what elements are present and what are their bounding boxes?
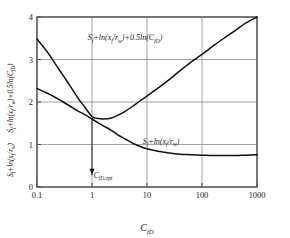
x-tick-label: 10: [143, 191, 151, 200]
chart-svg: 0.11101001000 01234 CfD Sf+ln(xf/rw)+0.5…: [0, 0, 290, 238]
y-tick-label: 1: [29, 141, 33, 150]
y-tick-label: 3: [29, 56, 33, 65]
yu-r3: )+0.5ln(C: [6, 71, 15, 102]
cu-p4: ): [159, 33, 163, 42]
cl-p1: +ln(x: [148, 137, 166, 146]
cl-p3: ): [176, 137, 180, 146]
x-tick-label: 0.1: [32, 191, 42, 200]
yl-r1: +ln(x: [6, 155, 15, 172]
x-tick-label: 1: [90, 191, 94, 200]
cu-p3: )+0.5ln(C: [121, 33, 155, 42]
yu-r4: ): [6, 63, 15, 67]
y-tick-label: 2: [29, 98, 33, 107]
y-axis-title-upper: Sf+ln(xf/rw)+0.5ln(CfD): [6, 63, 16, 133]
opt-sub: fD,opt: [99, 175, 113, 181]
yl-r3: ): [6, 142, 15, 146]
cu-p1: +ln(x: [93, 33, 111, 42]
figure-container: 0.11101001000 01234 CfD Sf+ln(xf/rw)+0.5…: [0, 0, 290, 238]
x-axis-title-sub: fD: [147, 228, 154, 235]
curve-label-upper: Sf+ln(xf/rw)+0.5ln(CfD): [88, 33, 163, 43]
x-tick-label: 100: [196, 191, 209, 200]
yu-r1: +ln(x: [6, 110, 15, 127]
x-tick-label: 1000: [249, 191, 266, 200]
y-tick-label: 0: [29, 183, 33, 192]
